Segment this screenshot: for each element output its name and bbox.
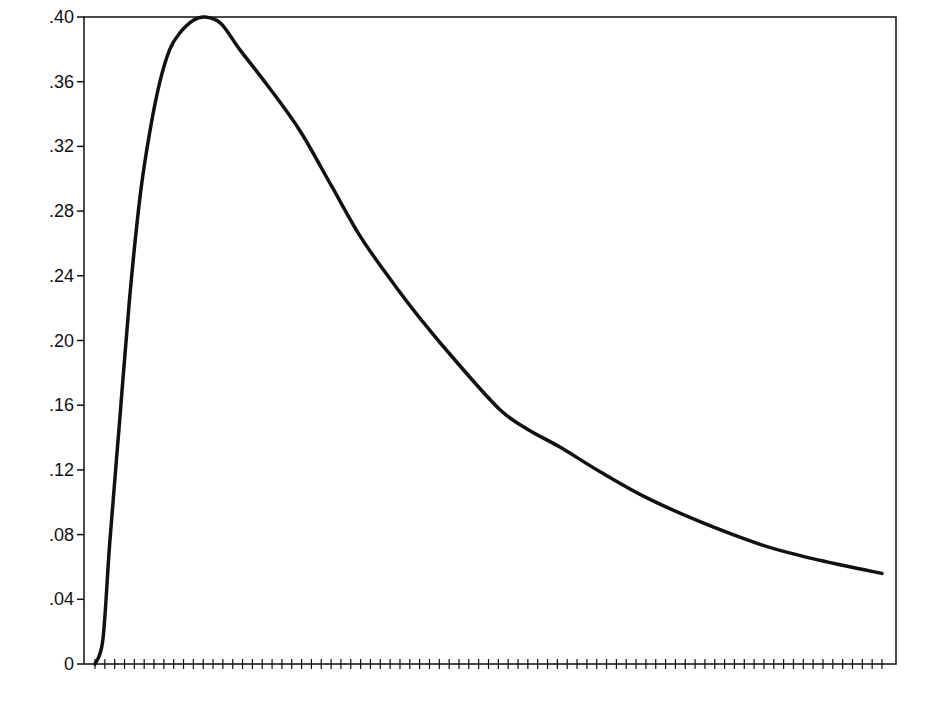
y-tick-label: .28 [49, 201, 74, 221]
y-tick-label: .20 [49, 331, 74, 351]
y-tick-label: .16 [49, 395, 74, 415]
y-tick-label: .32 [49, 136, 74, 156]
y-tick-label: .24 [49, 266, 74, 286]
y-tick-label: 0 [64, 654, 74, 674]
y-tick-label: .08 [49, 525, 74, 545]
y-tick-label: .36 [49, 72, 74, 92]
plot-frame [84, 17, 896, 664]
density-curve [95, 17, 882, 664]
line-chart-svg: 0.04.08.12.16.20.24.28.32.36.40 [0, 0, 931, 712]
chart: 0.04.08.12.16.20.24.28.32.36.40 [0, 0, 931, 712]
y-tick-label: .40 [49, 7, 74, 27]
y-axis: 0.04.08.12.16.20.24.28.32.36.40 [49, 7, 84, 674]
y-tick-label: .04 [49, 589, 74, 609]
y-tick-label: .12 [49, 460, 74, 480]
